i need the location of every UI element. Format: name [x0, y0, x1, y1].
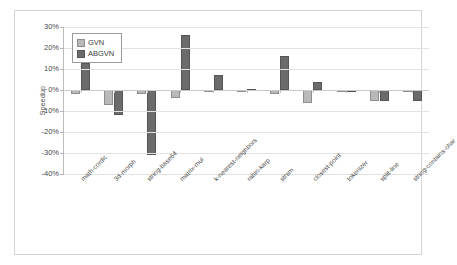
bar-abgvn	[147, 90, 156, 155]
y-axis-tick-label: -20%	[41, 128, 59, 136]
gridline	[63, 132, 429, 133]
x-axis-label-slot: strsm	[263, 176, 296, 178]
x-axis-label-slot: math-cordic	[63, 176, 96, 178]
bar-group	[164, 27, 197, 174]
legend-item: ABGVN	[77, 48, 114, 59]
legend-label: ABGVN	[88, 50, 114, 58]
y-axis-tick-label: 0%	[48, 86, 59, 94]
y-axis-tickmark	[60, 27, 64, 28]
bar-abgvn	[380, 90, 389, 101]
bar-abgvn	[313, 82, 322, 90]
bar-abgvn	[280, 56, 289, 90]
y-axis-tick-labels: 30%20%10%0%-10%-20%-30%-40%	[29, 27, 59, 171]
bar-group	[197, 27, 230, 174]
legend-item: GVN	[77, 37, 114, 48]
zero-gridline	[63, 90, 429, 91]
x-axis-label-slot: string-contains-char	[396, 176, 429, 178]
x-axis-label-slot: rabin-karp	[229, 176, 262, 178]
bar-gvn	[303, 90, 312, 103]
bar-gvn	[370, 90, 379, 101]
bar-group	[330, 27, 363, 174]
bar-group	[296, 27, 329, 174]
y-axis-tickmark	[60, 153, 64, 154]
bar-group	[263, 27, 296, 174]
gridline	[63, 27, 429, 28]
chart-frame: Speedup 30%20%10%0%-10%-20%-30%-40% GVNA…	[14, 10, 422, 255]
chart-legend: GVNABGVN	[72, 33, 122, 63]
x-axis-label-slot: split-line	[362, 176, 395, 178]
x-axis-label-slot: tokenizer	[329, 176, 362, 178]
bar-abgvn	[81, 63, 90, 90]
y-axis-tick-label: 30%	[44, 23, 59, 31]
legend-label: GVN	[88, 39, 104, 47]
gridline	[63, 111, 429, 112]
y-axis-tickmark	[60, 132, 64, 133]
legend-swatch-icon	[77, 50, 85, 58]
gridline	[63, 69, 429, 70]
bar-abgvn	[214, 75, 223, 90]
bar-abgvn	[181, 35, 190, 90]
y-axis-tick-label: 20%	[44, 44, 59, 52]
legend-swatch-icon	[77, 39, 85, 47]
x-axis-label-slot: closest-point	[296, 176, 329, 178]
y-axis-tickmark	[60, 48, 64, 49]
bar-gvn	[171, 90, 180, 98]
y-axis-tickmark	[60, 111, 64, 112]
x-axis-label-slot: string-base64	[130, 176, 163, 178]
bar-group	[396, 27, 429, 174]
y-axis-tickmark	[60, 90, 64, 91]
y-axis-tick-label: -40%	[41, 170, 59, 178]
y-axis-tick-label: 10%	[44, 65, 59, 73]
x-axis-label-slot: 3d-morph	[96, 176, 129, 178]
bar-abgvn	[413, 90, 422, 101]
bar-gvn	[104, 90, 113, 105]
y-axis-tickmark	[60, 69, 64, 70]
y-axis-tick-label: -10%	[41, 107, 59, 115]
bar-group	[130, 27, 163, 174]
x-axis-label-slot: matrix-mul	[163, 176, 196, 178]
x-axis-label-slot: k-nearest-neighbors	[196, 176, 229, 178]
x-axis-tick-labels: math-cordic3d-morphstring-base64matrix-m…	[63, 176, 429, 178]
bar-group	[363, 27, 396, 174]
y-axis-tick-label: -30%	[41, 149, 59, 157]
y-axis-tickmark	[60, 174, 64, 175]
